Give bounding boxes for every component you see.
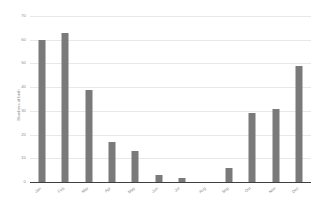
bar-may[interactable] (132, 151, 139, 182)
x-axis-tick-label: Jun (151, 186, 159, 193)
y-axis-tick-label: 60 (10, 38, 26, 42)
x-axis-tick-label: May (128, 186, 137, 194)
bar-slot (194, 16, 217, 182)
bar-slot (77, 16, 100, 182)
x-axis-tick-label: Oct (245, 186, 253, 193)
bars-layer (30, 16, 311, 182)
bar-jan[interactable] (38, 40, 45, 182)
bar-slot (288, 16, 311, 182)
bar-slot (217, 16, 240, 182)
bar-mar[interactable] (85, 90, 92, 182)
x-axis-tick-label: Mar (81, 186, 89, 194)
y-axis-title: Numbers of birth (17, 90, 21, 121)
x-axis-line (30, 182, 311, 183)
bar-feb[interactable] (62, 33, 69, 182)
x-axis-tick-label: Sep (221, 186, 229, 194)
y-axis-tick-label: 30 (10, 109, 26, 113)
bar-oct[interactable] (249, 113, 256, 182)
bar-chart: Numbers of birth 706050403020100 JanFebM… (0, 0, 317, 210)
bar-slot (30, 16, 53, 182)
x-axis-tick-label: Nov (268, 186, 276, 194)
bar-slot (124, 16, 147, 182)
bar-slot (147, 16, 170, 182)
y-axis-tick-label: 40 (10, 85, 26, 89)
bar-slot (264, 16, 287, 182)
y-axis-tick-label: 50 (10, 61, 26, 65)
y-axis-tick-label: 0 (10, 180, 26, 184)
bar-slot (100, 16, 123, 182)
y-axis-tick-label: 10 (10, 156, 26, 160)
y-axis-tick-label: 20 (10, 133, 26, 137)
x-axis-tick-label: Jul (174, 186, 181, 193)
y-axis-tick-label: 70 (10, 14, 26, 18)
bar-apr[interactable] (108, 142, 115, 182)
bar-dec[interactable] (296, 66, 303, 182)
bar-sep[interactable] (226, 168, 233, 182)
bar-slot (171, 16, 194, 182)
x-axis-tick-label: Apr (104, 186, 112, 193)
x-axis-tick-label: Jan (34, 186, 42, 193)
x-axis-tick-label: Dec (292, 186, 300, 194)
bar-slot (241, 16, 264, 182)
plot-area (30, 16, 311, 182)
bar-nov[interactable] (272, 109, 279, 183)
x-axis-tick-label: Feb (57, 186, 65, 194)
bar-slot (53, 16, 76, 182)
x-axis-tick-label: Aug (198, 186, 206, 194)
bar-jun[interactable] (155, 175, 162, 182)
